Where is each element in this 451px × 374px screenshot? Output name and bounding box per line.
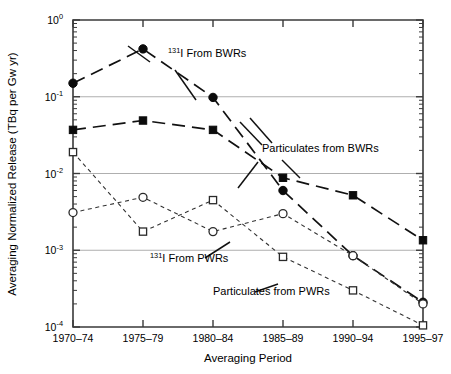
- x-tick-label: 1975–79: [123, 332, 164, 344]
- x-axis-label: Averaging Period: [204, 352, 292, 364]
- x-tick-label: 1995–97: [403, 332, 444, 344]
- data-point: [139, 45, 147, 53]
- ann-i131-bwr: 131I From BWRs: [168, 46, 247, 59]
- data-point: [279, 186, 287, 194]
- data-point: [69, 79, 77, 87]
- y-axis-label: Averaging Normalized Release (TBq per Gw…: [6, 52, 18, 295]
- x-tick-labels: 1970–741975–791980–841985–891990–941995–…: [53, 332, 444, 344]
- series-line: [73, 152, 423, 325]
- x-tick-label: 1980–84: [193, 332, 234, 344]
- data-point: [209, 197, 216, 204]
- figure-container: 10010-110-210-310-4 1970–741975–791980–8…: [0, 0, 451, 374]
- gridlines: [73, 97, 423, 251]
- y-tick-label: 10-4: [45, 319, 63, 333]
- data-point: [69, 209, 77, 217]
- y-tick-label: 10-1: [45, 89, 63, 103]
- x-tick-label: 1970–74: [53, 332, 94, 344]
- data-point: [69, 149, 76, 156]
- data-point: [139, 117, 146, 124]
- data-point: [419, 237, 426, 244]
- y-tick-labels: 10010-110-210-310-4: [45, 12, 63, 333]
- ann-part-bwr: Particulates from BWRs: [262, 142, 379, 154]
- annotation-leader: [240, 122, 262, 145]
- data-point: [69, 126, 76, 133]
- data-point: [419, 322, 426, 329]
- data-point: [209, 228, 217, 236]
- data-point: [349, 252, 357, 260]
- y-tick-label: 100: [47, 12, 63, 26]
- x-tick-label: 1985–89: [263, 332, 304, 344]
- ann-i131-pwr: 131I From PWRs: [150, 251, 229, 264]
- annotation-leader: [250, 118, 272, 143]
- data-point: [279, 253, 286, 260]
- data-point: [279, 174, 286, 181]
- ann-part-pwr: Particulates from PWRs: [213, 285, 330, 297]
- data-point: [279, 210, 287, 218]
- data-point: [139, 228, 146, 235]
- data-point: [419, 300, 427, 308]
- data-point: [209, 126, 216, 133]
- y-tick-label: 10-2: [45, 166, 63, 180]
- data-point: [139, 193, 147, 201]
- chart-svg: 10010-110-210-310-4 1970–741975–791980–8…: [0, 0, 451, 374]
- x-tick-label: 1990–94: [333, 332, 374, 344]
- data-point: [209, 93, 217, 101]
- data-point: [349, 192, 356, 199]
- y-tick-label: 10-3: [45, 243, 63, 257]
- data-point: [349, 287, 356, 294]
- annotation-leader: [238, 162, 258, 188]
- annotation-leader: [175, 70, 196, 100]
